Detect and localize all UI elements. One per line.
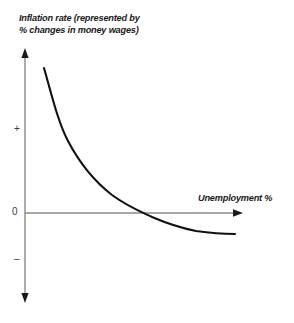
x-axis-arrow-right-icon [233,209,243,216]
y-tick-label-zero: 0 [12,207,18,216]
phillips-curve-figure: Inflation rate (represented by% changes … [0,0,294,323]
y-axis-title: Inflation rate (represented by% changes … [19,13,140,36]
y-axis-arrow-up-icon [21,48,28,58]
curve-path [44,68,235,234]
y-axis-title-line2: % changes in money wages) [19,25,139,35]
y-tick-label-negative: – [14,254,20,263]
y-axis [21,48,28,303]
x-axis [25,209,243,216]
chart-canvas [0,0,294,323]
phillips-curve-line [44,68,235,234]
y-axis-arrow-down-icon [21,293,28,303]
x-axis-title: Unemployment % [198,193,272,204]
y-tick-label-positive: + [14,124,20,133]
y-axis-title-line1: Inflation rate (represented by [19,13,140,23]
